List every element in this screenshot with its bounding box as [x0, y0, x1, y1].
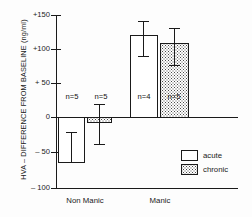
- errorbar-cap-lower-manic-acute: [138, 56, 149, 57]
- y-tick-mark-neg50: [51, 152, 56, 153]
- legend-swatch-chronic-icon: [181, 164, 198, 175]
- n-label-manic-acute: n=4: [132, 92, 156, 101]
- n-label-non-manic-chronic: n=5: [89, 92, 113, 101]
- errorbar-stem-manic-acute: [143, 21, 144, 57]
- y-tick-label-neg50: – 50: [35, 147, 50, 156]
- y-tick-label-50: + 50: [35, 78, 50, 87]
- legend-item-chronic: chronic: [181, 162, 228, 176]
- y-tick-label-100: +100: [33, 44, 50, 53]
- n-label-non-manic-acute: n=5: [60, 92, 84, 101]
- errorbar-stem-non-manic-chronic: [99, 104, 100, 144]
- n-label-manic-chronic: n=5: [162, 92, 186, 101]
- errorbar-cap-upper-non-manic-chronic: [94, 104, 105, 105]
- errorbar-stem-non-manic-acute: [71, 132, 72, 162]
- y-tick-label-0: 0: [46, 112, 50, 121]
- y-tick-label-150: +150: [33, 10, 50, 19]
- legend-item-acute: acute: [181, 148, 228, 162]
- errorbar-cap-lower-manic-chronic: [169, 65, 180, 66]
- errorbar-cap-non-manic-acute: [66, 132, 77, 133]
- chart-legend: acute chronic: [181, 148, 228, 176]
- legend-label-acute: acute: [203, 151, 222, 160]
- y-tick-mark-neg100: [51, 188, 56, 189]
- errorbar-cap-upper-manic-acute: [138, 21, 149, 22]
- y-axis-label: HVA – DIFFERENCE FROM BASELINE (ng/ml): [19, 15, 28, 185]
- legend-label-chronic: chronic: [203, 165, 228, 174]
- y-axis-line: [56, 15, 57, 189]
- x-axis-group-label-non-manic: Non Manic: [58, 196, 112, 205]
- bar-manic-acute: [130, 35, 158, 118]
- y-tick-label-neg100: – 100: [31, 183, 50, 192]
- y-tick-mark-100: [51, 49, 56, 50]
- y-tick-mark-50: [51, 83, 56, 84]
- legend-swatch-acute-icon: [181, 150, 198, 161]
- y-tick-mark-0: [51, 117, 56, 118]
- y-tick-mark-150: [51, 15, 56, 16]
- y-tick-inner-50: [57, 83, 61, 84]
- y-tick-inner-150: [57, 15, 61, 16]
- chart-figure: HVA – DIFFERENCE FROM BASELINE (ng/ml) +…: [0, 0, 252, 217]
- y-tick-inner-100: [57, 49, 61, 50]
- errorbar-cap-lower-non-manic-chronic: [94, 144, 105, 145]
- x-axis-line: [56, 188, 238, 189]
- errorbar-cap-upper-manic-chronic: [169, 28, 180, 29]
- errorbar-stem-manic-chronic: [174, 28, 175, 66]
- x-axis-group-label-manic: Manic: [132, 196, 188, 205]
